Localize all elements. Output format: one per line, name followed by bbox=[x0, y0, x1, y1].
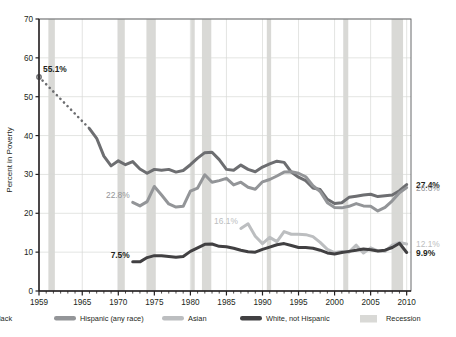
x-tick-label: 1959 bbox=[30, 298, 49, 307]
recession-band bbox=[48, 19, 54, 291]
annotation-start-asian: 16.1% bbox=[214, 216, 238, 226]
y-tick-label: 10 bbox=[24, 248, 34, 257]
chart-canvas: 010203040506070 195919651970197519801985… bbox=[0, 0, 456, 337]
legend-label: Black bbox=[0, 314, 12, 323]
y-tick-label: 0 bbox=[28, 287, 33, 296]
annotation-end-hispanic-any-race: 26.6% bbox=[416, 183, 440, 193]
y-tick-label: 20 bbox=[24, 209, 34, 218]
y-axis-title: Percent in Poverty bbox=[5, 127, 14, 192]
x-tick-label: 2005 bbox=[362, 298, 381, 307]
legend-swatch-band bbox=[360, 315, 377, 323]
legend-label: White, not Hispanic bbox=[266, 314, 330, 323]
legend-label: Recession bbox=[386, 314, 421, 323]
x-tick-label: 2000 bbox=[325, 298, 344, 307]
legend-swatch-line bbox=[240, 316, 262, 320]
x-tick-label: 1985 bbox=[217, 298, 236, 307]
legend-swatch-line bbox=[162, 316, 184, 320]
y-tick-label: 40 bbox=[24, 132, 34, 141]
poverty-rate-chart: 010203040506070 195919651970197519801985… bbox=[0, 0, 456, 337]
annotation-end-white-not-hispanic: 9.9% bbox=[416, 248, 436, 258]
x-tick-label: 1970 bbox=[109, 298, 128, 307]
x-tick-label: 1965 bbox=[73, 298, 92, 307]
y-tick-label: 70 bbox=[24, 15, 34, 24]
x-tick-label: 1975 bbox=[145, 298, 164, 307]
annotation-start-black: 55.1% bbox=[43, 64, 67, 74]
annotation-start-white-not-hispanic: 7.5% bbox=[111, 250, 131, 260]
recession-band bbox=[267, 19, 271, 291]
legend-swatch-line bbox=[54, 316, 76, 320]
y-tick-label: 30 bbox=[24, 170, 34, 179]
x-tick-label: 1995 bbox=[289, 298, 308, 307]
legend-item-black[interactable]: Black bbox=[0, 314, 12, 323]
recession-band bbox=[392, 19, 404, 291]
annotation-start-hispanic-any-race: 22.8% bbox=[106, 190, 130, 200]
x-tick-label: 1980 bbox=[181, 298, 200, 307]
y-tick-label: 50 bbox=[24, 93, 34, 102]
x-tick-label: 2010 bbox=[398, 298, 417, 307]
legend-label: Asian bbox=[188, 314, 207, 323]
y-tick-label: 60 bbox=[24, 54, 34, 63]
x-tick-label: 1990 bbox=[253, 298, 272, 307]
legend-label: Hispanic (any race) bbox=[80, 314, 144, 323]
legend-item-recession[interactable]: Recession bbox=[360, 314, 421, 323]
